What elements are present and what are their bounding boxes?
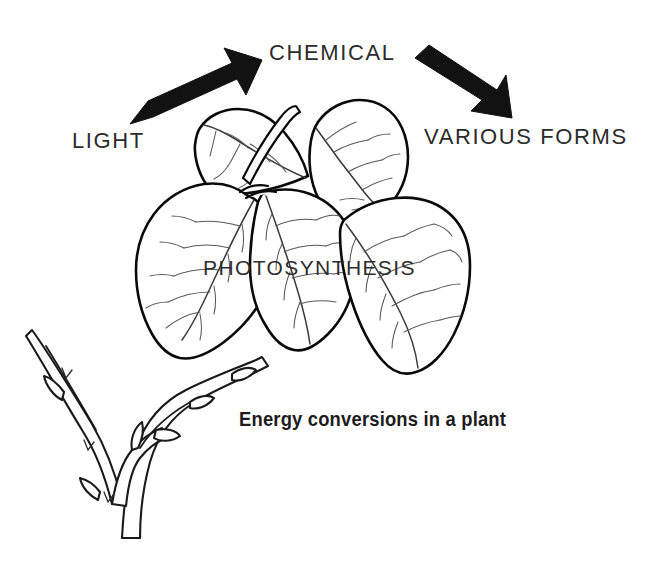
chemical-to-various-forms-arrow	[415, 45, 512, 118]
figure-caption: Energy conversions in a plant	[239, 408, 506, 431]
label-various-forms: VARIOUS FORMS	[424, 124, 628, 150]
leaf-right	[340, 198, 470, 374]
branch-twig	[26, 330, 268, 538]
line-art-canvas	[0, 0, 659, 567]
figure-energy-conversions: LIGHT CHEMICAL VARIOUS FORMS PHOTOSYNTHE…	[0, 0, 659, 567]
label-photosynthesis: PHOTOSYNTHESIS	[203, 256, 416, 280]
label-light: LIGHT	[72, 128, 145, 154]
label-chemical: CHEMICAL	[269, 40, 396, 66]
